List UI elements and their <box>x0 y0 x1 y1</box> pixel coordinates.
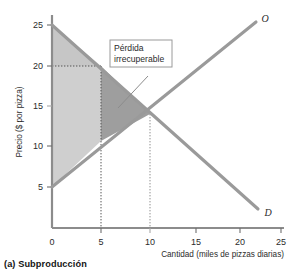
y-tick-label-25: 25 <box>33 20 43 30</box>
x-tick-label-10: 10 <box>145 237 155 247</box>
y-axis-title: Precio ($ por pizza) <box>15 86 24 157</box>
x-tick-label-0: 0 <box>49 237 54 247</box>
y-tick-label-20: 20 <box>33 61 43 71</box>
x-tick-label-25: 25 <box>276 237 286 247</box>
figure-subproduccion: O D 5 10 15 20 25 0 5 10 15 20 25 Precio… <box>0 0 301 278</box>
x-axis-title: Cantidad (miles de pizzas diarias) <box>161 250 284 259</box>
annotation-line-1: Pérdida <box>114 43 144 53</box>
demand-supply-chart: O D 5 10 15 20 25 0 5 10 15 20 25 Precio… <box>0 0 301 278</box>
x-tick-label-5: 5 <box>98 237 103 247</box>
x-tick-label-15: 15 <box>191 237 201 247</box>
y-tick-label-15: 15 <box>33 101 43 111</box>
y-tick-label-10: 10 <box>33 141 43 151</box>
figure-caption: (a) Subproducción <box>4 259 87 269</box>
demand-curve-label: D <box>263 207 272 218</box>
annotation-line-2: irrecuperable <box>114 54 164 64</box>
y-tick-label-5: 5 <box>38 182 43 192</box>
supply-curve-label: O <box>261 13 268 24</box>
x-tick-label-20: 20 <box>235 237 245 247</box>
